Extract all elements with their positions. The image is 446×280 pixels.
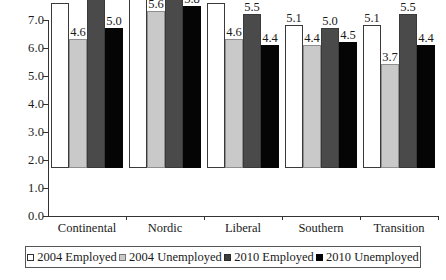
bar-value-label: 4.6	[226, 26, 242, 39]
y-axis-tick-mark	[43, 20, 48, 21]
bar[interactable]: 5.0	[321, 28, 339, 168]
legend-swatch-icon	[224, 254, 231, 261]
legend-item-label: 2010 Unemployed	[326, 250, 419, 264]
bar[interactable]: 5.8	[183, 6, 201, 168]
legend-swatch-icon	[27, 254, 34, 261]
bar-value-label: 5.0	[106, 15, 122, 28]
y-axis-tick-mark	[43, 188, 48, 189]
bar-value-label: 5.5	[400, 1, 416, 14]
bar[interactable]: 5.0	[105, 28, 123, 168]
bar[interactable]: 3.7	[381, 64, 399, 168]
x-axis-category-label: Transition	[360, 220, 438, 236]
bar-value-label: 3.7	[382, 51, 398, 64]
x-axis-line	[48, 216, 438, 217]
y-axis-tick-labels: 0.01.02.03.04.05.06.07.0	[8, 0, 44, 232]
legend-item-label: 2010 Employed	[234, 250, 314, 264]
bar[interactable]: 5.6	[147, 11, 165, 168]
bar[interactable]: 4.6	[225, 39, 243, 168]
chart-legend: 2004 Employed2004 Unemployed2010 Employe…	[25, 246, 421, 268]
x-axis-tick-mark	[126, 216, 127, 220]
bar[interactable]: 6.1	[87, 0, 105, 168]
y-axis-tick-mark	[43, 48, 48, 49]
y-axis-tick-mark	[43, 132, 48, 133]
y-axis-tick-mark	[43, 216, 48, 217]
x-axis-tick-mark	[360, 216, 361, 220]
legend-item[interactable]: 2004 Employed	[27, 250, 117, 264]
bar-value-label: 5.0	[322, 15, 338, 28]
bar[interactable]: 5.9	[207, 3, 225, 168]
x-axis-category-label: Liberal	[204, 220, 282, 236]
y-axis-tick-label: 4.0	[10, 98, 44, 110]
bar[interactable]: 4.6	[69, 39, 87, 168]
legend-item[interactable]: 2004 Unemployed	[119, 250, 222, 264]
bar[interactable]: 5.1	[285, 25, 303, 168]
bar[interactable]: 4.4	[303, 45, 321, 168]
bar[interactable]: 5.1	[363, 25, 381, 168]
bar-value-label: 5.8	[184, 0, 200, 6]
bar-value-label: 5.5	[244, 1, 260, 14]
bar-value-label: 4.4	[304, 32, 320, 45]
plot-area: 0.01.02.03.04.05.06.07.0 5.94.66.15.06.6…	[0, 0, 446, 232]
bar-value-label: 5.9	[208, 0, 224, 3]
y-axis-tick-label: 3.0	[10, 126, 44, 138]
y-axis-tick-mark	[43, 76, 48, 77]
y-axis-tick-label: 5.0	[10, 70, 44, 82]
bar-group: 5.13.75.54.4	[363, 0, 435, 168]
legend-item-label: 2004 Employed	[37, 250, 117, 264]
bar-value-label: 4.6	[70, 26, 86, 39]
bar[interactable]: 4.5	[339, 42, 357, 168]
x-axis-category-label: Southern	[282, 220, 360, 236]
legend-swatch-icon	[316, 254, 323, 261]
bar-group: 6.65.66.65.8	[129, 0, 201, 168]
legend-item[interactable]: 2010 Employed	[224, 250, 314, 264]
x-axis-tick-mark	[204, 216, 205, 220]
bar-value-label: 5.1	[286, 12, 302, 25]
legend-item-label: 2004 Unemployed	[129, 250, 222, 264]
bar[interactable]: 5.5	[243, 14, 261, 168]
x-axis-category-label: Nordic	[126, 220, 204, 236]
bar-value-label: 4.4	[262, 32, 278, 45]
y-axis-tick-label: 0.0	[10, 210, 44, 222]
bar[interactable]: 5.9	[51, 3, 69, 168]
bar[interactable]: 5.5	[399, 14, 417, 168]
bar[interactable]: 6.6	[165, 0, 183, 168]
bar-chart: 0.01.02.03.04.05.06.07.0 5.94.66.15.06.6…	[0, 0, 446, 280]
x-axis-tick-mark	[438, 216, 439, 220]
x-axis-tick-mark	[282, 216, 283, 220]
bar-value-label: 4.4	[418, 32, 434, 45]
y-axis-tick-mark	[43, 104, 48, 105]
y-axis-tick-label: 1.0	[10, 182, 44, 194]
bar-group: 5.94.65.54.4	[207, 0, 279, 168]
y-axis-tick-mark	[43, 160, 48, 161]
y-axis-tick-label: 6.0	[10, 42, 44, 54]
legend-item[interactable]: 2010 Unemployed	[316, 250, 419, 264]
bar-group: 5.94.66.15.0	[51, 0, 123, 168]
bar[interactable]: 6.6	[129, 0, 147, 168]
bar[interactable]: 4.4	[417, 45, 435, 168]
bar-value-label: 4.5	[340, 29, 356, 42]
bar-group: 5.14.45.04.5	[285, 0, 357, 168]
bar-value-label: 5.9	[52, 0, 68, 3]
y-axis-tick-label: 7.0	[10, 14, 44, 26]
legend-swatch-icon	[119, 254, 126, 261]
bar-value-label: 5.6	[148, 0, 164, 11]
bar-value-label: 5.1	[364, 12, 380, 25]
y-axis-tick-label: 2.0	[10, 154, 44, 166]
y-axis-line	[48, 20, 49, 216]
bar[interactable]: 4.4	[261, 45, 279, 168]
x-axis-category-label: Continental	[48, 220, 126, 236]
